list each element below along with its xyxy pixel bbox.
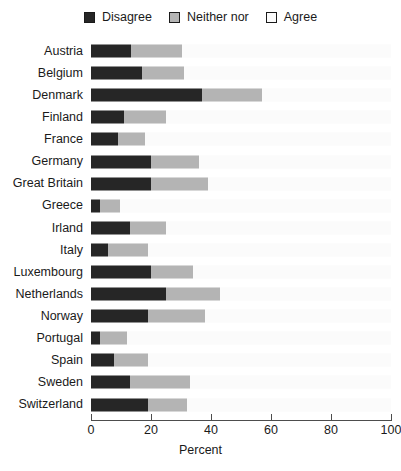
bar-segment-disagree	[91, 376, 130, 389]
bar-segment-disagree	[91, 133, 118, 146]
chart-row: Denmark	[0, 84, 401, 106]
chart-row: Sweden	[0, 371, 401, 393]
category-label-irland: Irland	[0, 222, 83, 235]
bar-track	[91, 221, 391, 234]
category-label-belgium: Belgium	[0, 67, 83, 80]
x-axis-tick-label: 40	[204, 424, 218, 437]
bar-segment-neither-nor	[148, 398, 187, 411]
bar-segment-disagree	[91, 89, 202, 102]
bar-segment-neither-nor	[118, 133, 145, 146]
bar-segment-disagree	[91, 67, 142, 80]
x-axis-tick	[211, 414, 212, 421]
bar-segment-disagree	[91, 398, 148, 411]
chart-row: Belgium	[0, 62, 401, 84]
chart-row: Italy	[0, 239, 401, 261]
category-label-sweden: Sweden	[0, 376, 83, 389]
x-axis-tick-label: 80	[324, 424, 338, 437]
bar-track	[91, 89, 391, 102]
bar-track	[91, 67, 391, 80]
bar-segment-disagree	[91, 265, 151, 278]
bar-segment-neither-nor	[100, 332, 127, 345]
chart-row: Greece	[0, 195, 401, 217]
chart-row: Austria	[0, 40, 401, 62]
bar-track	[91, 310, 391, 323]
bar-segment-agree	[262, 89, 391, 102]
bar-segment-agree	[187, 398, 391, 411]
bar-track	[91, 354, 391, 367]
bar-segment-disagree	[91, 199, 100, 212]
category-label-luxembourg: Luxembourg	[0, 266, 83, 279]
bar-track	[91, 243, 391, 256]
bar-segment-disagree	[91, 155, 151, 168]
bar-track	[91, 111, 391, 124]
bar-segment-disagree	[91, 243, 108, 256]
bar-segment-disagree	[91, 45, 131, 58]
legend-entry-agree: Agree	[266, 11, 317, 24]
x-axis-tick-label: 60	[264, 424, 278, 437]
bar-track	[91, 376, 391, 389]
category-label-spain: Spain	[0, 354, 83, 367]
figure-caption	[0, 463, 401, 469]
bar-segment-agree	[182, 45, 391, 58]
category-label-italy: Italy	[0, 244, 83, 257]
filled-gray-square-icon	[169, 12, 180, 23]
bar-segment-neither-nor	[114, 354, 149, 367]
bar-segment-agree	[120, 199, 392, 212]
bar-track	[91, 155, 391, 168]
bar-segment-agree	[148, 243, 391, 256]
category-label-greece: Greece	[0, 199, 83, 212]
chart-row: Netherlands	[0, 283, 401, 305]
chart-row: Finland	[0, 106, 401, 128]
bar-segment-agree	[205, 310, 391, 323]
legend-label-disagree: Disagree	[102, 11, 152, 24]
bar-segment-disagree	[91, 288, 166, 301]
bar-segment-agree	[145, 133, 391, 146]
bar-segment-agree	[208, 177, 391, 190]
x-axis-line	[91, 420, 391, 421]
x-axis-tick	[391, 414, 392, 421]
bar-segment-neither-nor	[202, 89, 262, 102]
x-axis-tick	[151, 414, 152, 421]
bar-segment-disagree	[91, 111, 124, 124]
category-label-finland: Finland	[0, 111, 83, 124]
bar-track	[91, 133, 391, 146]
chart-row: Spain	[0, 349, 401, 371]
bar-track	[91, 398, 391, 411]
bar-segment-neither-nor	[130, 376, 190, 389]
bar-segment-neither-nor	[151, 265, 193, 278]
legend-entry-disagree: Disagree	[84, 11, 152, 24]
bar-segment-agree	[148, 354, 391, 367]
bar-segment-agree	[220, 288, 391, 301]
legend-label-neither-nor: Neither nor	[187, 11, 249, 24]
bar-segment-neither-nor	[166, 288, 220, 301]
x-axis-tick	[271, 414, 272, 421]
category-label-switzerland: Switzerland	[0, 398, 83, 411]
bar-segment-disagree	[91, 310, 148, 323]
bar-segment-neither-nor	[148, 310, 205, 323]
bar-segment-agree	[184, 67, 391, 80]
chart-row: Norway	[0, 305, 401, 327]
bar-track	[91, 332, 391, 345]
bar-track	[91, 288, 391, 301]
x-axis-tick-label: 0	[88, 424, 95, 437]
category-label-germany: Germany	[0, 155, 83, 168]
category-label-portugal: Portugal	[0, 332, 83, 345]
bar-segment-agree	[190, 376, 391, 389]
chart-row: Irland	[0, 217, 401, 239]
stacked-bar-chart: Disagree Neither nor Agree AustriaBelgiu…	[0, 0, 401, 471]
chart-row: Germany	[0, 150, 401, 172]
chart-row: France	[0, 128, 401, 150]
chart-legend: Disagree Neither nor Agree	[0, 11, 401, 24]
bar-segment-agree	[193, 265, 391, 278]
bar-segment-neither-nor	[151, 177, 208, 190]
plot-area: AustriaBelgiumDenmarkFinlandFranceGerman…	[0, 40, 401, 412]
bar-track	[91, 199, 391, 212]
bar-segment-neither-nor	[130, 221, 166, 234]
category-label-netherlands: Netherlands	[0, 288, 83, 301]
empty-square-icon	[266, 12, 277, 23]
x-axis-tick-label: 100	[381, 424, 401, 437]
bar-track	[91, 45, 391, 58]
bar-segment-agree	[166, 221, 391, 234]
legend-label-agree: Agree	[284, 11, 317, 24]
x-axis-tick-label: 20	[144, 424, 158, 437]
